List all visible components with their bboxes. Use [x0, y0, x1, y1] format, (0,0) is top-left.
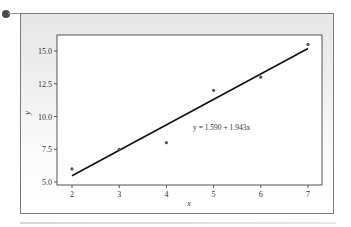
- y-tick-label: 12.5: [38, 80, 52, 89]
- y-tick-label: 7.5: [42, 145, 52, 154]
- x-tick-label: 2: [70, 190, 74, 199]
- x-axis: 234567: [70, 185, 310, 199]
- data-point: [212, 89, 215, 92]
- y-tick-label: 15.0: [38, 47, 52, 56]
- regression-equation: y = 1.590 + 1.943x: [193, 123, 250, 132]
- y-tick-label: 10.0: [38, 113, 52, 122]
- data-point: [70, 167, 73, 170]
- x-axis-label: x: [186, 199, 191, 208]
- y-axis: 5.07.510.012.515.0: [38, 47, 57, 187]
- data-point: [306, 43, 309, 46]
- y-tick-label: 5.0: [42, 178, 52, 187]
- scatter-chart: 234567 5.07.510.012.515.0 y = 1.590 + 1.…: [0, 0, 351, 227]
- data-point: [118, 148, 121, 151]
- x-tick-label: 5: [212, 190, 216, 199]
- y-axis-label: y: [23, 111, 32, 116]
- x-tick-label: 6: [259, 190, 263, 199]
- x-tick-label: 7: [306, 190, 310, 199]
- x-tick-label: 4: [164, 190, 168, 199]
- data-point: [165, 141, 168, 144]
- x-tick-label: 3: [117, 190, 121, 199]
- data-point: [259, 76, 262, 79]
